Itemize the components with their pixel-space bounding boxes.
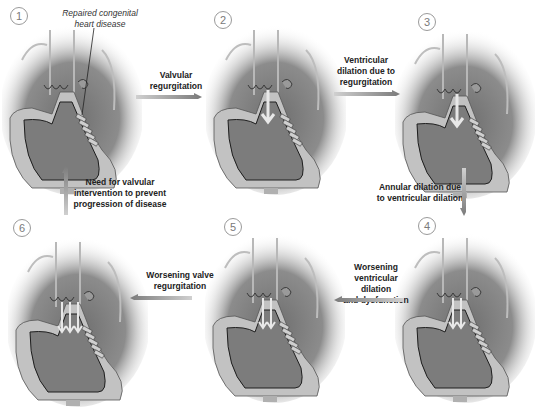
label-line: ventricular dilation <box>338 273 414 295</box>
label-line: Worsening <box>338 262 414 273</box>
heart-illustration <box>206 20 346 195</box>
label-line: regurgitation <box>136 81 216 92</box>
label-line: regurgitation <box>330 77 402 88</box>
label-line: to ventricular dilation <box>370 193 470 204</box>
transition-3-4-label: Annular dilation due to ventricular dila… <box>370 182 470 204</box>
heart-illustration <box>395 228 535 403</box>
label-line: Worsening valve <box>140 270 220 281</box>
label-line: Ventricular <box>330 55 402 66</box>
regurgitation-arrows-icon <box>58 302 82 332</box>
label-line: Valvular <box>136 70 216 81</box>
stage-number-1: 1 <box>10 7 28 25</box>
label-line: Need for valvular <box>72 177 168 188</box>
label-line: regurgitation <box>140 281 220 292</box>
repaired-chd-annotation: Repaired congenital heart disease <box>60 8 140 30</box>
stage-1-panel <box>2 20 142 190</box>
arrow-up-icon <box>62 165 68 215</box>
stage-5-panel <box>205 228 345 398</box>
arrow-right-icon <box>136 93 202 99</box>
stage-number-5: 5 <box>224 218 242 236</box>
transition-6-1-label: Need for valvular intervention to preven… <box>72 177 168 210</box>
stage-2-panel <box>206 20 346 190</box>
stage-4-panel <box>395 228 535 398</box>
transition-5-6-label: Worsening valve regurgitation <box>140 270 220 292</box>
label-line: progression of disease <box>72 199 168 210</box>
arrow-left-icon <box>130 294 192 300</box>
heart-illustration <box>205 228 345 403</box>
stage-6-panel <box>8 232 148 402</box>
transition-1-2-label: Valvular regurgitation <box>136 70 216 92</box>
annotation-leader-line <box>2 20 142 195</box>
arrow-left-icon <box>334 296 404 302</box>
label-line: Annular dilation due <box>370 182 470 193</box>
label-line: dilation due to <box>330 66 402 77</box>
arrow-down-icon <box>460 168 466 216</box>
label-line: intervention to prevent <box>72 188 168 199</box>
stage-number-2: 2 <box>214 11 232 29</box>
stage-number-3: 3 <box>418 13 436 31</box>
arrow-right-icon <box>334 90 400 96</box>
transition-2-3-label: Ventricular dilation due to regurgitatio… <box>330 55 402 88</box>
heart-illustration <box>8 232 148 407</box>
stage-number-6: 6 <box>13 219 31 237</box>
stage-number-4: 4 <box>418 217 436 235</box>
